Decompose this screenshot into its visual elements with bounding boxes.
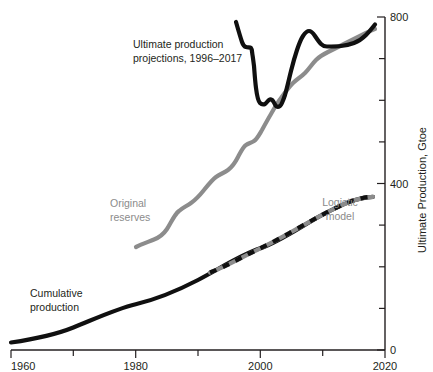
x-tick-label-1980: 1980 xyxy=(123,360,147,372)
y-axis-ticks xyxy=(377,17,385,350)
x-tick-labels: 1960 1980 2000 2020 xyxy=(11,360,397,372)
x-axis-ticks xyxy=(11,350,385,358)
y-tick-label-800: 800 xyxy=(390,11,408,23)
annotation-cumulative-production-line2: production xyxy=(30,301,79,313)
x-tick-label-1960: 1960 xyxy=(11,360,35,372)
annotation-cumulative-production: Cumulative production xyxy=(30,287,83,313)
y-axis-title: Ultimate Production, Gtoe xyxy=(416,127,428,253)
x-tick-label-2000: 2000 xyxy=(248,360,272,372)
series-ultimate-production-projections xyxy=(236,22,375,107)
y-tick-labels: 0 400 800 xyxy=(390,11,408,356)
y-tick-label-0: 0 xyxy=(390,344,396,356)
annotation-upp-line2: projections, 1996–2017 xyxy=(133,52,242,64)
annotation-upp-line1: Ultimate production xyxy=(133,38,224,50)
annotation-original-reserves-line1: Original xyxy=(110,197,146,209)
x-tick-label-2020: 2020 xyxy=(373,360,397,372)
annotation-logistic-model-line1: Logistic xyxy=(322,196,358,208)
y-tick-label-400: 400 xyxy=(390,178,408,190)
annotation-ultimate-production-projections: Ultimate production projections, 1996–20… xyxy=(133,38,242,64)
chart-svg: 1960 1980 2000 2020 0 400 800 Ultimate P… xyxy=(0,0,433,372)
annotation-logistic-model-line2: model xyxy=(326,210,355,222)
chart-figure: 1960 1980 2000 2020 0 400 800 Ultimate P… xyxy=(0,0,433,372)
annotation-original-reserves-line2: reserves xyxy=(110,211,150,223)
annotation-logistic-model: Logistic model xyxy=(322,196,358,222)
annotation-cumulative-production-line1: Cumulative xyxy=(30,287,83,299)
annotation-original-reserves: Original reserves xyxy=(110,197,150,223)
